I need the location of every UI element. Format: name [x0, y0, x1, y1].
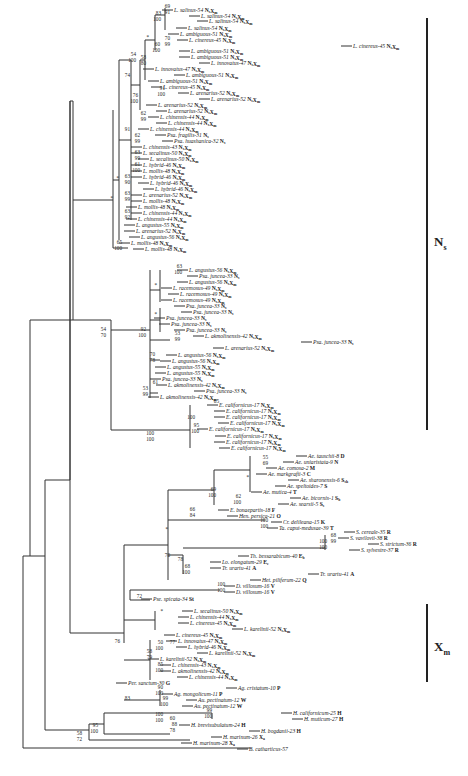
clade-label-xm: Xm — [434, 639, 450, 657]
support-value: * — [154, 311, 157, 317]
leaf-label: Tr. urartu-41 A — [222, 565, 256, 571]
leaf-label: L. mollis-48 NsXm — [144, 246, 187, 254]
leaf-label: L. akmolinensis-42 NsXm — [159, 394, 218, 402]
leaf-label: L. innovatus-47 NsXm — [210, 60, 261, 68]
support-value: 100 — [146, 436, 154, 442]
leaf-label: L. cinereus-45 NsXm — [188, 37, 236, 45]
leaf-label: L. arenarius-52 NsXm — [224, 345, 275, 353]
support-value: 78 — [150, 357, 156, 363]
support-value: 100 — [138, 332, 146, 338]
leaf-label: Per. sanctum-30 G — [127, 680, 171, 686]
support-value: 100 — [260, 523, 268, 529]
support-value: 99 — [135, 138, 141, 144]
support-value: 100 — [114, 245, 122, 251]
leaf-label: Hen. persica-21 O — [238, 513, 281, 519]
support-value: 83 — [125, 695, 131, 701]
support-value: 100 — [132, 167, 140, 173]
clade-bar-ns — [426, 18, 428, 430]
support-value: 61 — [153, 379, 159, 385]
support-value: 72 — [77, 736, 83, 742]
support-value: * — [110, 195, 113, 201]
support-value: * — [246, 474, 249, 480]
clade-bar-xm — [426, 604, 428, 682]
support-value: 92 — [125, 214, 131, 220]
support-value: * — [160, 608, 163, 614]
leaf-label: Ag. cristatum-10 P — [237, 685, 281, 691]
leaf-label: H. bogdanii-23 H — [260, 728, 302, 734]
support-value: 74 — [125, 72, 131, 78]
support-value: 84 — [190, 512, 196, 518]
support-value: 100 — [217, 587, 225, 593]
support-value: 100 — [153, 16, 161, 22]
support-value: 100 — [155, 667, 163, 673]
support-value: 69 — [263, 460, 269, 466]
leaf-label: L. chinensis-44 NsXm — [188, 674, 238, 682]
leaf-label: B. catharticus-57 — [249, 746, 288, 752]
leaf-label: L. cinereus-45 NsXm — [189, 620, 237, 628]
support-value: 100 — [155, 645, 163, 651]
support-value: 79 — [147, 654, 153, 660]
support-value: 99 — [175, 336, 181, 342]
support-value: 100 — [174, 269, 182, 275]
leaf-label: L. karelinii-52 NsXm — [243, 626, 291, 634]
leaf-label: Ta. caput-medusae-39 T — [279, 525, 334, 531]
leaf-label: S. sylvestre-37 R — [361, 547, 400, 553]
leaf-label: D. villosum-16 V — [235, 589, 275, 595]
support-value: 91 — [165, 9, 171, 15]
support-value: 100 — [155, 717, 163, 723]
leaf-label: L. akmolinensis-42 NsXm — [204, 333, 263, 341]
support-value: * — [116, 175, 119, 181]
support-value: 99 — [125, 196, 131, 202]
leaf-label: L. arenarius-52 NsXm — [210, 96, 261, 104]
leaf-label: Pse. spicata-34 St — [152, 596, 194, 602]
support-value: 91 — [125, 126, 131, 132]
leaf-label: L. cinereus-45 NsXm — [352, 43, 400, 51]
clade-label-ns: Ns — [434, 234, 447, 252]
support-value: 76 — [115, 638, 121, 644]
support-value: 100 — [191, 428, 199, 434]
support-value: 80 — [141, 60, 147, 66]
support-value: 100 — [130, 98, 138, 104]
leaf-label: H. marinum-28 Xa — [192, 740, 235, 747]
support-value: * — [154, 282, 157, 288]
support-value: 99 — [331, 538, 337, 544]
leaf-label: H. muticum-27 H — [303, 716, 344, 722]
leaf-label: H. brevisubulatum-24 H — [190, 722, 246, 728]
support-value: 90 — [125, 179, 131, 185]
support-value: 100 — [157, 91, 165, 97]
support-value: 72 — [137, 593, 143, 599]
support-value: 77 — [170, 639, 176, 645]
support-value: 99 — [141, 116, 147, 122]
leaf-label: L. karelinii-52 NsXm — [208, 650, 256, 658]
support-value: 100 — [187, 414, 195, 420]
support-value: 100 — [90, 728, 98, 734]
leaf-label: E. californicus-17 NsXm — [230, 445, 286, 453]
support-value: 100 — [128, 57, 136, 63]
support-value: 100 — [233, 499, 241, 505]
support-value: 100 — [319, 544, 327, 550]
leaf-label: Ae. mutica-4 T — [262, 489, 297, 495]
support-value: 78 — [178, 556, 184, 562]
support-value: 100 — [204, 713, 212, 719]
leaf-label: Tr. urartu-41 A — [320, 571, 354, 577]
support-value: 100 — [182, 569, 190, 575]
support-value: 70 — [101, 332, 107, 338]
support-value: 100 — [160, 701, 168, 707]
leaf-label: Ae. searsii-5 Ss — [289, 501, 325, 508]
support-value: 99 — [143, 391, 149, 397]
support-value: * — [165, 526, 168, 532]
support-value: 99 — [165, 41, 171, 47]
leaf-label: Au. pectinatum-12 W — [193, 703, 243, 709]
leaf-label: Psa. juncea-33 Ns — [312, 339, 354, 346]
support-value: * — [146, 34, 149, 40]
support-value: 100 — [208, 492, 216, 498]
support-value: 78 — [170, 727, 176, 733]
leaf-label: Psa. juncea-33 Ns — [205, 388, 247, 395]
phylogenetic-tree: 699183100709960100*541005880749110076100… — [0, 0, 468, 776]
support-value: 70 — [165, 552, 171, 558]
support-value: 100 — [152, 47, 160, 53]
